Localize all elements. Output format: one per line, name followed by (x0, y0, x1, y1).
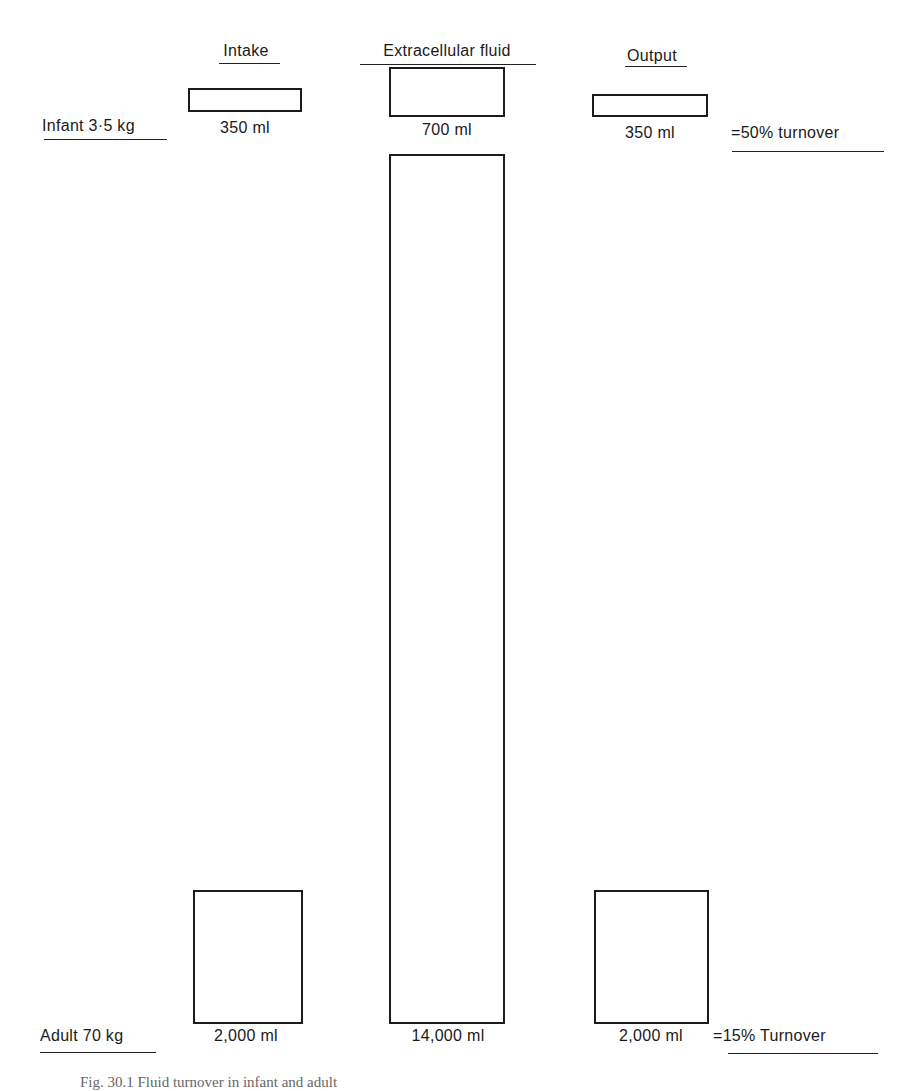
column-header-ecf: Extracellular fluid (350, 42, 544, 60)
infant-turnover-equals: = (731, 124, 741, 141)
adult-turnover-value: 15% Turnover (723, 1027, 826, 1044)
column-header-output: Output (614, 47, 690, 65)
column-header-output-underline (625, 66, 687, 67)
column-header-ecf-underline (360, 64, 536, 65)
infant-turnover-value: 50% turnover (741, 124, 840, 141)
infant-ecf-box (389, 67, 505, 117)
infant-turnover: =50% turnover (731, 124, 839, 142)
adult-turnover-underline (728, 1053, 878, 1054)
adult-turnover-equals: = (713, 1027, 723, 1044)
row-label-adult: Adult 70 kg (40, 1027, 123, 1045)
infant-ecf-value: 700 ml (397, 121, 497, 139)
column-header-intake-underline (219, 63, 280, 64)
row-label-infant: Infant 3·5 kg (42, 117, 135, 135)
infant-output-value: 350 ml (600, 124, 700, 142)
adult-output-box (594, 890, 709, 1024)
infant-turnover-underline (732, 151, 884, 152)
adult-intake-box (193, 890, 303, 1024)
row-label-adult-underline (40, 1052, 156, 1053)
adult-ecf-box (389, 154, 505, 1024)
adult-turnover: =15% Turnover (713, 1027, 826, 1045)
infant-output-box (592, 94, 708, 117)
row-label-infant-underline (44, 139, 167, 140)
adult-output-value: 2,000 ml (599, 1027, 703, 1045)
adult-intake-value: 2,000 ml (196, 1027, 296, 1045)
figure-caption: Fig. 30.1 Fluid turnover in infant and a… (80, 1074, 337, 1091)
infant-intake-value: 350 ml (195, 119, 295, 137)
adult-ecf-value: 14,000 ml (390, 1027, 506, 1045)
infant-intake-box (188, 88, 302, 112)
column-header-intake: Intake (210, 42, 282, 60)
